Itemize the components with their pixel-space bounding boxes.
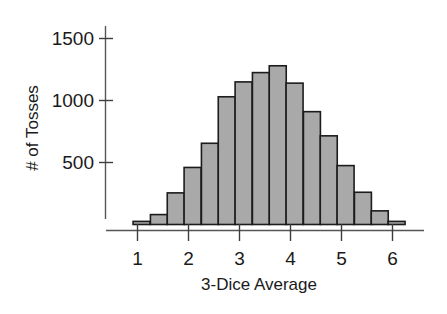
histogram-bar <box>320 136 337 225</box>
histogram-bar <box>303 112 320 225</box>
histogram-bar <box>388 221 405 224</box>
histogram-bar <box>218 97 235 225</box>
histogram-bar <box>150 215 167 225</box>
y-axis-title: # of Tosses <box>23 85 42 171</box>
y-tick-label-1500: 1500 <box>52 28 94 49</box>
histogram-bar <box>269 66 286 225</box>
x-tick-label-5: 5 <box>336 248 347 269</box>
histogram-bar <box>235 82 252 225</box>
histogram-figure: 1500 1000 500 123456 # of Tosses 3-Dice … <box>0 0 447 314</box>
histogram-bar <box>371 211 388 225</box>
x-tick-label-1: 1 <box>132 248 143 269</box>
histogram-bar <box>286 83 303 224</box>
histogram-bar <box>337 166 354 225</box>
histogram-bar <box>133 221 150 224</box>
x-tick-label-3: 3 <box>234 248 245 269</box>
x-tick-label-4: 4 <box>285 248 296 269</box>
x-tick-label-6: 6 <box>387 248 398 269</box>
histogram-bar <box>252 73 269 225</box>
histogram-plot: 1500 1000 500 123456 # of Tosses 3-Dice … <box>0 0 447 314</box>
histogram-bar <box>354 192 371 224</box>
y-tick-label-500: 500 <box>62 152 94 173</box>
histogram-bar <box>184 167 201 224</box>
y-tick-label-1000: 1000 <box>52 90 94 111</box>
histogram-bar <box>201 143 218 224</box>
x-tick-label-2: 2 <box>183 248 194 269</box>
histogram-bar <box>167 193 184 225</box>
x-axis-title: 3-Dice Average <box>201 275 317 294</box>
